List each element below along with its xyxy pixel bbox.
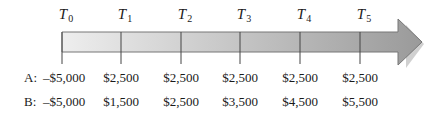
cashflow-b-t2: $2,500 [163,94,199,110]
cashflow-a-t3: $2,500 [222,70,258,86]
period-label-t1: T1 [118,6,132,24]
period-label-t3: T3 [237,6,251,24]
cashflow-b-t3: $3,500 [222,94,258,110]
period-label-t4: T4 [297,6,311,24]
row-label-a: A: [24,70,37,86]
cashflow-a-t2: $2,500 [163,70,199,86]
period-label-t0: T0 [59,6,73,24]
cashflow-a-t1: $2,500 [103,70,139,86]
cashflow-a-t5: $2,500 [342,70,378,86]
cashflow-b-t0: –$5,000 [43,94,85,110]
period-label-t2: T2 [178,6,192,24]
cashflow-a-t4: $2,500 [282,70,318,86]
period-label-t5: T5 [357,6,371,24]
cashflow-b-t1: $1,500 [103,94,139,110]
cashflow-b-t4: $4,500 [282,94,318,110]
cashflow-a-t0: –$5,000 [43,70,85,86]
cashflow-b-t5: $5,500 [342,94,378,110]
row-label-b: B: [24,94,36,110]
